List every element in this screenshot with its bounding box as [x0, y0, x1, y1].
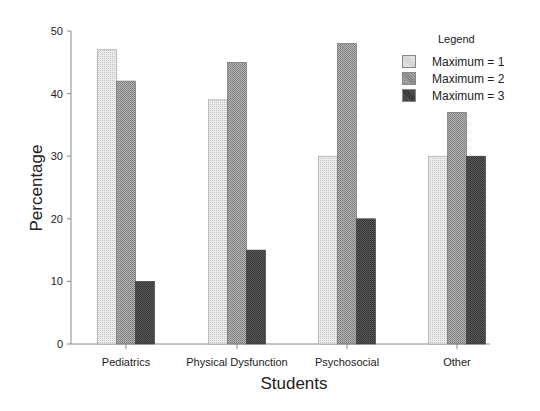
bar-other-series-2 [448, 112, 467, 344]
legend-label: Maximum = 3 [432, 89, 504, 103]
bar-other-series-1 [429, 156, 448, 344]
y-tick-label: 50 [51, 25, 63, 37]
legend-swatch-max2 [402, 72, 416, 85]
legend-label: Maximum = 2 [432, 72, 504, 86]
x-tick-label: Physical Dysfunction [186, 356, 288, 368]
bar-pediatrics-series-2 [117, 81, 136, 344]
legend-title: Legend [438, 33, 540, 45]
legend-label: Maximum = 1 [432, 55, 504, 69]
bar-pediatrics-series-1 [98, 50, 117, 344]
bar-other-series-3 [467, 156, 486, 344]
bar-physical-dysfunction-series-3 [247, 250, 266, 344]
legend-swatch-max3 [402, 89, 416, 102]
bar-psychosocial-series-3 [357, 219, 376, 344]
legend-swatch-max1 [402, 55, 416, 68]
bar-physical-dysfunction-series-2 [228, 62, 247, 344]
y-tick-label: 20 [51, 213, 63, 225]
y-tick-label: 40 [51, 88, 63, 100]
y-tick-label: 10 [51, 275, 63, 287]
legend-item: Maximum = 3 [400, 87, 540, 104]
x-tick-label: Other [443, 356, 471, 368]
x-axis-label: Students [260, 374, 327, 393]
bar-physical-dysfunction-series-1 [209, 100, 228, 344]
y-tick-label: 30 [51, 150, 63, 162]
y-axis-label: Percentage [27, 145, 46, 232]
legend-item: Maximum = 1 [400, 53, 540, 70]
x-tick-label: Psychosocial [315, 356, 379, 368]
y-tick-label: 0 [57, 338, 63, 350]
bar-psychosocial-series-2 [338, 44, 357, 344]
legend-item: Maximum = 2 [400, 70, 540, 87]
x-tick-label: Pediatrics [102, 356, 151, 368]
bar-psychosocial-series-1 [319, 156, 338, 344]
bar-pediatrics-series-3 [136, 281, 155, 344]
legend: Legend Maximum = 1 Maximum = 2 Maximum =… [400, 33, 540, 104]
